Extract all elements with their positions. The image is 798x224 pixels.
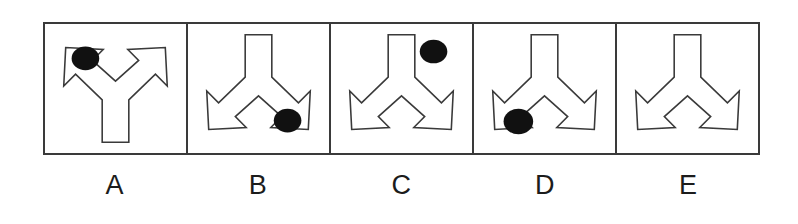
panel-label-e: E [617,160,760,210]
panel-b-graphic [188,24,329,153]
shape-comparison-figure: A B C D E [0,0,798,224]
panel-label-d: D [473,160,616,210]
panel-d[interactable] [474,24,617,153]
panel-b[interactable] [188,24,331,153]
panel-e[interactable] [617,24,758,153]
marker-dot-a [72,47,100,71]
panel-a-graphic [45,24,186,153]
panel-label-a: A [43,160,186,210]
panel-label-b: B [186,160,329,210]
panel-labels-row: A B C D E [43,160,760,210]
marker-dot-d [504,109,534,135]
panel-c-graphic [331,24,472,153]
panel-c[interactable] [331,24,474,153]
panel-e-graphic [617,24,758,153]
panel-d-graphic [474,24,615,153]
panel-label-c: C [330,160,473,210]
panel-a[interactable] [45,24,188,153]
panel-strip [43,22,760,155]
marker-dot-b [274,109,302,133]
bifurcated-arrow-outline-e [636,35,740,130]
marker-dot-c [420,40,448,64]
